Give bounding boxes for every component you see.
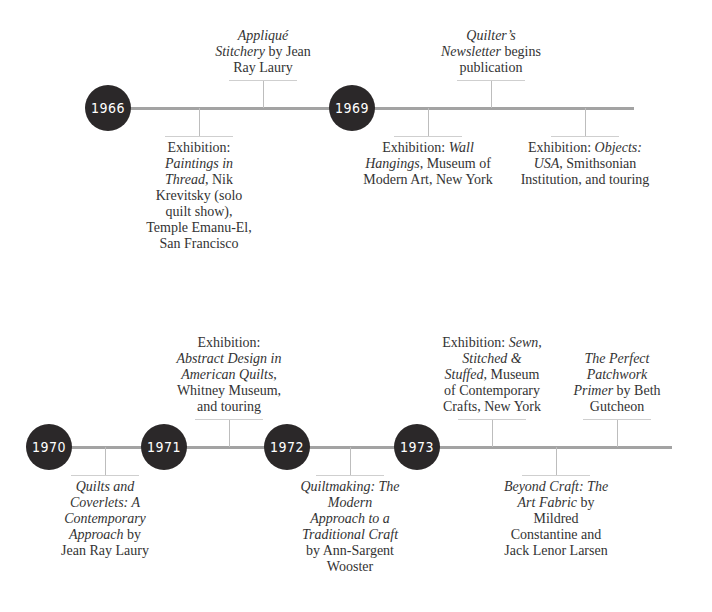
- connector-stem: [263, 80, 264, 108]
- connector-stem: [491, 80, 492, 108]
- year-marker: 1969: [329, 85, 375, 131]
- connector-bar: [71, 475, 139, 476]
- timeline-diagram: Appliqué Stitchery by Jean Ray LauryExhi…: [0, 0, 712, 612]
- year-marker: 1972: [264, 424, 310, 470]
- connector-stem: [428, 108, 429, 136]
- year-marker: 1966: [85, 85, 131, 131]
- year-marker: 1971: [141, 424, 187, 470]
- connector-bar: [458, 419, 526, 420]
- connector-stem: [105, 447, 106, 475]
- event-label: Appliqué Stitchery by Jean Ray Laury: [213, 28, 313, 76]
- event-label: Quilter’s Newsletter begins publication: [441, 28, 541, 76]
- connector-stem: [229, 419, 230, 447]
- event-label: Quilts and Coverlets: A Contemporary App…: [55, 479, 155, 559]
- year-marker: 1973: [394, 424, 440, 470]
- event-label: Exhibition: Sewn, Stitched & Stuffed, Mu…: [440, 335, 545, 415]
- connector-stem: [617, 419, 618, 447]
- connector-stem: [199, 108, 200, 136]
- connector-bar: [394, 136, 462, 137]
- event-label: Beyond Craft: The Art Fabric by Mildred …: [499, 479, 614, 559]
- connector-bar: [522, 475, 590, 476]
- connector-stem: [492, 419, 493, 447]
- connector-bar: [229, 80, 297, 81]
- event-label: Exhibition: Paintings in Thread, Nik Kre…: [144, 140, 254, 252]
- connector-stem: [556, 447, 557, 475]
- connector-bar: [457, 80, 525, 81]
- connector-stem: [585, 108, 586, 136]
- event-label: Exhibition: Wall Hangings, Museum of Mod…: [358, 140, 498, 188]
- connector-bar: [316, 475, 384, 476]
- connector-bar: [583, 419, 651, 420]
- year-marker: 1970: [26, 424, 72, 470]
- event-label: The Perfect Patchwork Primer by Beth Gut…: [567, 351, 667, 415]
- connector-bar: [165, 136, 233, 137]
- connector-bar: [195, 419, 263, 420]
- event-label: Exhibition: Objects: USA, Smithsonian In…: [515, 140, 655, 188]
- connector-bar: [551, 136, 619, 137]
- connector-stem: [350, 447, 351, 475]
- event-label: Quiltmaking: The Modern Approach to a Tr…: [300, 479, 400, 575]
- event-label: Exhibition: Abstract Design in American …: [174, 335, 284, 415]
